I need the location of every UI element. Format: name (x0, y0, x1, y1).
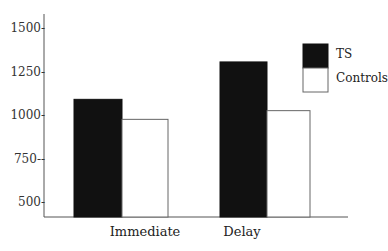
bar-controls-immediate (122, 119, 168, 217)
y-tick-label: 1000- (10, 108, 45, 122)
legend-swatch-ts (303, 44, 328, 68)
category-labels: ImmediateDelay (110, 224, 262, 239)
y-tick-label: 1500- (10, 21, 45, 35)
bar-ts-immediate (74, 99, 122, 217)
legend-label: TS (336, 47, 352, 61)
legend-swatch-controls (303, 68, 328, 92)
category-label: Immediate (110, 224, 181, 239)
category-label: Delay (223, 224, 261, 239)
y-tick-label: 1250- (10, 65, 45, 79)
bar-controls-delay (267, 111, 310, 217)
y-tick-label: 750-- (14, 152, 45, 166)
legend-label: Controls (336, 71, 388, 85)
bar-ts-delay (220, 62, 267, 217)
bars (74, 62, 310, 217)
legend: TSControls (303, 44, 388, 92)
y-tick-label: 500- (18, 195, 45, 209)
bar-chart: 500-750--1000-1250-1500- ImmediateDelay … (0, 0, 388, 251)
